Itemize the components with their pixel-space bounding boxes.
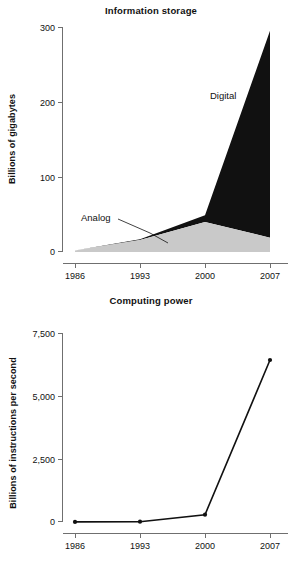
- data-point-1986: [73, 520, 77, 524]
- plot-area-computing-power: 7,500 5,000 2,500 0 1986 1993 2000 2007: [0, 290, 302, 572]
- x-tick-label-1993: 1993: [130, 541, 150, 551]
- series-annotation-digital: Digital: [210, 90, 236, 101]
- y-tick-label-5000: 5,000: [32, 392, 55, 402]
- x-tick-label-2007: 2007: [260, 541, 280, 551]
- x-tick-label-1986: 1986: [65, 271, 85, 281]
- y-tick-label-0: 0: [50, 517, 55, 527]
- y-tick-label-2500: 2,500: [32, 455, 55, 465]
- data-point-2007: [268, 358, 272, 362]
- x-tick-label-2000: 2000: [195, 541, 215, 551]
- plot-area-information-storage: 300 200 100 0 1986 1993 2000 2007 Digita…: [0, 0, 302, 290]
- data-point-2000: [203, 513, 207, 517]
- series-annotation-analog: Analog: [81, 212, 111, 223]
- x-tick-label-2000: 2000: [195, 271, 215, 281]
- y-tick-label-300: 300: [40, 23, 55, 33]
- x-tick-label-1986: 1986: [65, 541, 85, 551]
- figure-computing-power: Computing power Billions of instructions…: [0, 290, 302, 572]
- data-line-computing-power: [75, 360, 270, 522]
- y-tick-label-0: 0: [50, 247, 55, 257]
- figure-information-storage: Information storage Billions of gigabyte…: [0, 0, 302, 290]
- x-tick-label-2007: 2007: [260, 271, 280, 281]
- y-tick-label-7500: 7,500: [32, 329, 55, 339]
- data-point-1993: [138, 520, 142, 524]
- x-tick-label-1993: 1993: [130, 271, 150, 281]
- y-tick-label-100: 100: [40, 173, 55, 183]
- y-tick-label-200: 200: [40, 98, 55, 108]
